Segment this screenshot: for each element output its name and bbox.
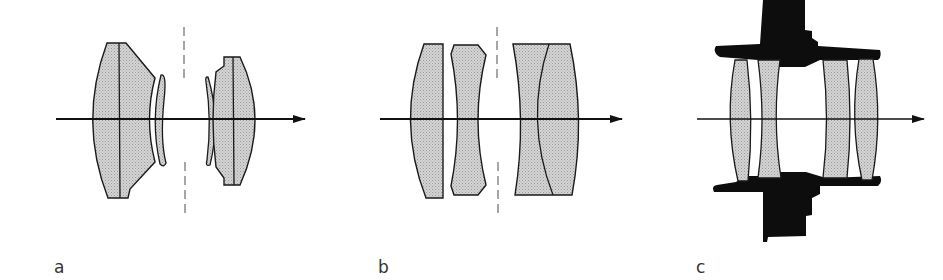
lens-diagrams [0, 0, 943, 280]
aperture-stop-b [497, 27, 498, 218]
panel-label-c: c [696, 259, 705, 276]
panel-a [56, 27, 305, 218]
panel-c [697, 0, 924, 242]
lens-b-1 [410, 44, 443, 198]
lens-a-front-meniscus [155, 75, 166, 166]
panel-label-a: a [54, 259, 64, 276]
aperture-stop-a [184, 27, 185, 218]
panel-label-b: b [378, 259, 389, 276]
lens-a-front-group [93, 43, 155, 198]
lens-c-1 [730, 60, 751, 181]
lens-mount-top [715, 0, 881, 67]
lens-b-2 [451, 45, 486, 195]
lens-mount-bottom [713, 172, 881, 242]
panel-b [380, 27, 622, 218]
